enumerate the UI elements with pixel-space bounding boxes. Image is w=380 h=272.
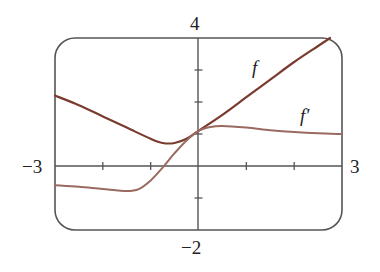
chart-canvas <box>0 0 380 272</box>
y-max-label: 4 <box>190 14 200 33</box>
f-curve <box>55 38 330 143</box>
x-min-label: −3 <box>22 157 42 176</box>
f-prime-curve-label: f′ <box>300 106 309 125</box>
y-min-label: −2 <box>181 238 201 257</box>
x-max-label: 3 <box>350 157 360 176</box>
f-curve-label: f <box>252 58 257 77</box>
